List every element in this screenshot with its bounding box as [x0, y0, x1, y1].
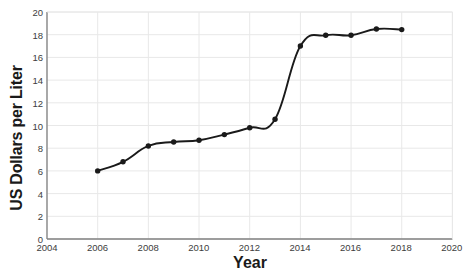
chart-container: US Dollars per Liter 20 18 16 14 12 10 8…	[0, 0, 471, 276]
data-point	[222, 132, 227, 137]
data-point	[348, 33, 353, 38]
data-point	[196, 138, 201, 143]
x-axis-title: Year	[47, 254, 453, 272]
data-point	[146, 143, 151, 148]
data-point	[120, 159, 125, 164]
data-point	[399, 27, 404, 32]
data-point	[374, 26, 379, 31]
data-point	[272, 117, 277, 122]
data-point	[323, 33, 328, 38]
data-point	[298, 43, 303, 48]
data-point	[247, 125, 252, 130]
data-point	[95, 168, 100, 173]
plot-area	[0, 0, 471, 276]
data-point	[171, 139, 176, 144]
